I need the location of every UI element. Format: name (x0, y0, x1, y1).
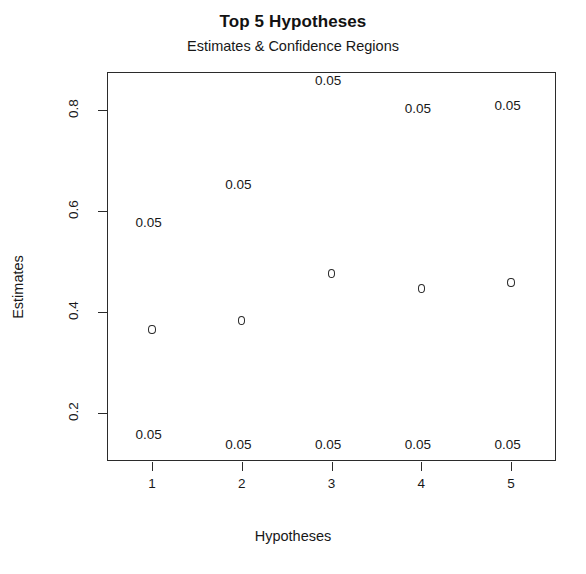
upper-bound-label: 0.05 (225, 177, 251, 192)
data-point-marker (418, 284, 425, 293)
lower-bound-label: 0.05 (135, 427, 161, 442)
x-axis-tick (332, 462, 333, 471)
x-axis-tick-label: 5 (491, 476, 531, 491)
y-axis-tick (98, 211, 107, 212)
scatter-plot-figure: Top 5 Hypotheses Estimates & Confidence … (0, 0, 586, 574)
y-axis-tick-label: 0.4 (66, 290, 81, 330)
upper-bound-label: 0.05 (405, 101, 431, 116)
x-axis-tick (242, 462, 243, 471)
y-axis-tick (98, 110, 107, 111)
upper-bound-label: 0.05 (135, 215, 161, 230)
data-point-marker (507, 278, 514, 287)
chart-title: Top 5 Hypotheses (0, 12, 586, 32)
x-axis-tick (152, 462, 153, 471)
lower-bound-label: 0.05 (315, 437, 341, 452)
plot-area (107, 72, 556, 461)
y-axis-label: Estimates (10, 207, 26, 367)
y-axis-tick-label: 0.2 (66, 392, 81, 432)
lower-bound-label: 0.05 (405, 437, 431, 452)
x-axis-tick-label: 1 (132, 476, 172, 491)
data-point-marker (328, 269, 335, 278)
data-point-marker (148, 325, 155, 334)
y-axis-tick (98, 312, 107, 313)
y-axis-tick-label: 0.6 (66, 189, 81, 229)
upper-bound-label: 0.05 (495, 98, 521, 113)
x-axis-tick-label: 4 (401, 476, 441, 491)
y-axis-tick-label: 0.8 (66, 88, 81, 128)
x-axis-label: Hypotheses (0, 528, 586, 544)
x-axis-tick (511, 462, 512, 471)
upper-bound-label: 0.05 (315, 73, 341, 88)
y-axis-tick (98, 413, 107, 414)
x-axis-tick-label: 3 (312, 476, 352, 491)
chart-subtitle: Estimates & Confidence Regions (0, 38, 586, 54)
x-axis-tick-label: 2 (222, 476, 262, 491)
lower-bound-label: 0.05 (225, 437, 251, 452)
lower-bound-label: 0.05 (495, 437, 521, 452)
x-axis-tick (421, 462, 422, 471)
